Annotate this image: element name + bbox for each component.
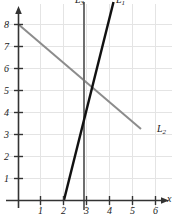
y-tick-label-8: 8 bbox=[4, 20, 9, 30]
series-label-L3-sub: 3 bbox=[81, 0, 85, 7]
y-tick-label-7: 7 bbox=[4, 42, 9, 52]
plot-canvas bbox=[0, 0, 176, 217]
series-label-L1: L1 bbox=[116, 0, 125, 7]
y-tick-label-6: 6 bbox=[4, 64, 9, 74]
y-tick-label-2: 2 bbox=[4, 152, 9, 162]
y-tick-label-1: 1 bbox=[4, 174, 9, 184]
y-tick-label-3: 3 bbox=[4, 130, 9, 140]
line-L1 bbox=[64, 2, 114, 200]
x-tick-label-4: 4 bbox=[107, 206, 112, 216]
series-label-L1-sub: 1 bbox=[122, 0, 126, 7]
series-label-L2: L2 bbox=[157, 124, 166, 136]
x-tick-label-3: 3 bbox=[84, 206, 89, 216]
x-tick-label-2: 2 bbox=[61, 206, 66, 216]
x-tick-label-5: 5 bbox=[130, 206, 135, 216]
y-axis bbox=[15, 6, 22, 208]
x-axis bbox=[6, 197, 169, 204]
line-L2 bbox=[18, 24, 141, 129]
x-tick-label-6: 6 bbox=[153, 206, 158, 216]
y-tick-label-5: 5 bbox=[4, 86, 9, 96]
x-axis-label: x bbox=[167, 194, 171, 204]
y-tick-label-4: 4 bbox=[4, 108, 9, 118]
x-tick-label-1: 1 bbox=[38, 206, 43, 216]
figure-graph-three-lines: 1 2 3 4 5 6 7 8 1 2 3 4 5 6 x L2 L3 L1 bbox=[0, 0, 176, 217]
series-label-L2-sub: 2 bbox=[163, 128, 167, 136]
series-label-L3: L3 bbox=[75, 0, 84, 7]
